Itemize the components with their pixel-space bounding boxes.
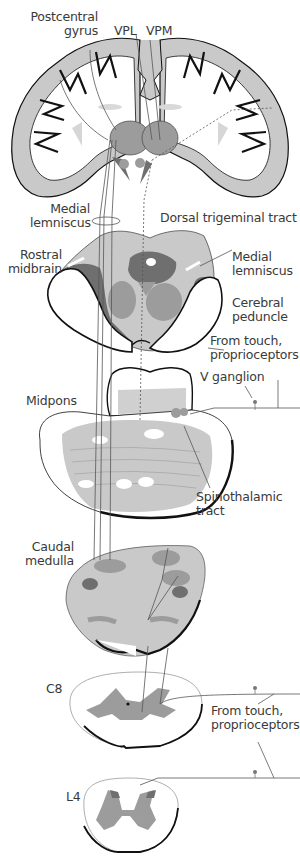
coronal-brain-section: [12, 38, 289, 197]
caudal-medulla-section: [66, 546, 205, 657]
label-line: tract: [196, 504, 282, 518]
c8-spinal-section: [70, 672, 202, 748]
label-line: Medial: [30, 202, 90, 216]
label-line: proprioceptors: [210, 348, 299, 362]
label-line: Cerebral: [232, 296, 288, 310]
label-from-touch-bottom: From touch, proprioceptors: [211, 704, 300, 732]
label-rostral-midbrain: Rostral midbrain: [0, 248, 62, 276]
label-line: From touch,: [210, 334, 299, 348]
label-line: medulla: [14, 554, 74, 568]
label-midpons: Midpons: [26, 394, 77, 408]
label-line: Caudal: [14, 540, 74, 554]
label-from-touch-top: From touch, proprioceptors: [210, 334, 299, 362]
label-cerebral-peduncle: Cerebral peduncle: [232, 296, 288, 324]
label-line: From touch,: [211, 704, 300, 718]
label-line: Postcentral: [18, 10, 98, 24]
label-postcentral-gyrus: Postcentral gyrus: [18, 10, 98, 38]
label-l4: L4: [66, 790, 81, 804]
label-c8: C8: [46, 682, 62, 696]
pathway-diagram: [0, 0, 300, 864]
label-line: lemniscus: [30, 216, 90, 230]
label-spinothalamic-tract: Spinothalamic tract: [196, 490, 282, 518]
label-medial-lemniscus-mid: Medial lemniscus: [232, 250, 293, 278]
label-vpm: VPM: [146, 24, 172, 38]
label-vpl: VPL: [114, 24, 136, 38]
label-line: Spinothalamic: [196, 490, 282, 504]
label-dorsal-trigeminal-tract: Dorsal trigeminal tract: [160, 211, 297, 225]
label-line: midbrain: [0, 262, 62, 276]
label-line: gyrus: [18, 24, 98, 38]
label-line: proprioceptors: [211, 718, 300, 732]
medial-lemniscus-ring: [92, 217, 120, 225]
label-caudal-medulla: Caudal medulla: [14, 540, 74, 568]
label-line: lemniscus: [232, 264, 293, 278]
label-line: Medial: [232, 250, 293, 264]
label-line: peduncle: [232, 310, 288, 324]
label-v-ganglion: V ganglion: [200, 370, 265, 384]
label-line: Rostral: [0, 248, 62, 262]
rostral-midbrain-section: [48, 231, 222, 352]
l4-spinal-section: [84, 778, 178, 852]
label-medial-lemniscus-top: Medial lemniscus: [30, 202, 90, 230]
